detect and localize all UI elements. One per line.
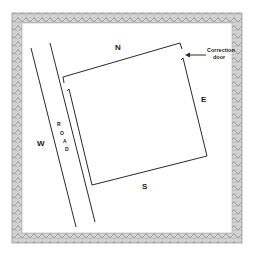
road-letter-r: R (57, 121, 61, 127)
south-label: S (142, 182, 148, 191)
south-boundary (92, 156, 207, 185)
west-boundary (67, 89, 92, 185)
plot-outline (63, 43, 207, 185)
east-boundary (181, 58, 207, 156)
correction-door-label: Correction (207, 47, 235, 53)
road-letter-a: A (63, 138, 67, 144)
vastu-site-plan: N W E S R O A D Correction door (0, 0, 254, 255)
correction-door-label-2: door (213, 54, 226, 60)
north-label: N (115, 43, 121, 52)
north-boundary (63, 43, 182, 83)
east-label: E (201, 95, 207, 104)
road-letter-d: D (65, 146, 69, 152)
west-label: W (37, 139, 45, 148)
road-letter-o: O (60, 130, 64, 136)
left-arrow-icon (185, 53, 206, 58)
